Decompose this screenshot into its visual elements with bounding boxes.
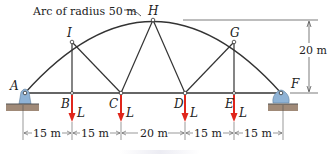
joint-pins: [70, 18, 236, 95]
arc-radius-note: Arc of radius 50 m: [32, 5, 137, 18]
joint-label-A: A: [9, 79, 19, 93]
member-GD: [185, 42, 234, 93]
truss-figure: L L L L A B C D E F G H I Arc of radius …: [0, 0, 328, 158]
span-label-EF: 15 m: [244, 127, 272, 140]
joint-label-H: H: [147, 4, 159, 18]
joint-label-G: G: [230, 26, 240, 40]
faint-caption-remnant: [120, 150, 200, 154]
top-chord-arc: [25, 22, 281, 94]
span-label-DE: 15 m: [194, 127, 222, 140]
height-label: 20 m: [299, 44, 327, 57]
joint-label-F: F: [290, 77, 300, 91]
member-HC: [121, 20, 153, 93]
load-arrows: [69, 95, 238, 122]
load-label-C: L: [125, 106, 134, 120]
member-IC: [72, 42, 121, 93]
span-label-BC: 15 m: [81, 127, 109, 140]
span-label-AB: 15 m: [33, 127, 61, 140]
joint-label-C: C: [109, 97, 118, 111]
joint-label-D: D: [173, 97, 184, 111]
joint-label-B: B: [60, 97, 70, 111]
load-label-B: L: [76, 106, 85, 120]
load-label-E: L: [238, 106, 247, 120]
span-label-CD: 20 m: [140, 127, 168, 140]
member-HD: [153, 20, 185, 93]
load-label-D: L: [189, 106, 198, 120]
joint-label-E: E: [224, 97, 234, 111]
joint-label-I: I: [66, 26, 72, 40]
